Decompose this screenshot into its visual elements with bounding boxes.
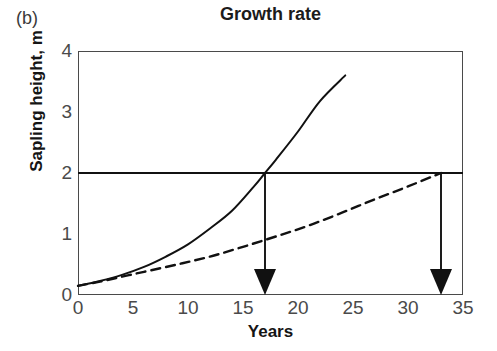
x-tick-label: 20 — [278, 298, 318, 317]
x-tick-label: 30 — [388, 298, 428, 317]
x-tick-labels: 05101520253035 — [0, 0, 497, 351]
growth-rate-figure: (b) Growth rate Sapling height, m Years … — [0, 0, 497, 351]
x-tick-label: 5 — [113, 298, 153, 317]
x-tick-label: 35 — [443, 298, 483, 317]
x-tick-label: 10 — [168, 298, 208, 317]
x-tick-label: 15 — [223, 298, 263, 317]
x-tick-label: 25 — [333, 298, 373, 317]
x-tick-label: 0 — [58, 298, 98, 317]
